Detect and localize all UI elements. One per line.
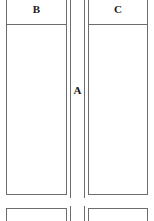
upper-table-right-border [147, 0, 148, 195]
lower-table-b-column-right-border [66, 208, 67, 221]
lower-table-left-border [6, 208, 7, 221]
upper-table-c-bottom-rule [88, 194, 148, 195]
upper-table-header-cell-c: C [88, 4, 148, 15]
upper-table-body-cell-c [89, 25, 147, 194]
lower-table-a-column-right-border [84, 206, 85, 221]
lower-table-right-border [147, 208, 148, 221]
upper-table-b-bottom-rule [6, 194, 67, 195]
upper-table-body-cell-a [71, 1, 84, 198]
upper-table-header-cell-b: B [6, 4, 67, 15]
lower-table-c-top-rule [88, 208, 148, 209]
lower-table-b-top-rule [6, 208, 67, 209]
scanned-page: B C A [0, 0, 154, 221]
upper-table-a-column-right-border [84, 0, 85, 198]
lower-table [0, 206, 154, 221]
lower-table-a-column-left-border [70, 206, 71, 221]
upper-table: B C A [0, 0, 154, 198]
upper-table-body-cell-b [7, 25, 66, 194]
lower-table-c-column-left-border [88, 208, 89, 221]
upper-table-b-column-right-border [66, 0, 67, 195]
